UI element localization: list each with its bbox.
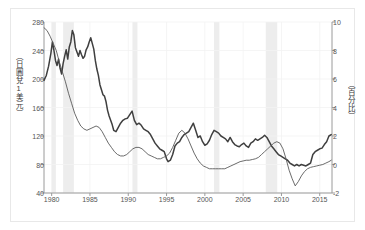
x-axis-ticks: 19801985199019952000200520102015 — [0, 196, 365, 210]
y-tick-label-right: 6 — [333, 76, 337, 83]
y-axis-right-title: （百分比） — [345, 80, 356, 120]
y-tick-label-left: 240 — [32, 47, 44, 54]
y-axis-left-title: （日圓兌1美元） — [13, 52, 24, 117]
y-tick-label-right: 10 — [333, 19, 341, 26]
x-tick-label: 1995 — [159, 196, 175, 203]
x-tick-label: 1980 — [44, 196, 60, 203]
y-tick-label-left: 120 — [32, 133, 44, 140]
y-tick-label-left: 280 — [32, 19, 44, 26]
y-tick-label-right: 2 — [333, 133, 337, 140]
series-line-interest-rate — [44, 28, 331, 186]
y-tick-label-left: 200 — [32, 76, 44, 83]
y-tick-label-right: 4 — [333, 104, 337, 111]
y-tick-label-left: 160 — [32, 104, 44, 111]
x-tick-label: 1990 — [120, 196, 136, 203]
x-tick-label: 2005 — [235, 196, 251, 203]
x-tick-label: 1985 — [82, 196, 98, 203]
y-tick-label-left: 80 — [36, 161, 44, 168]
chart-figure: 4080120160200240280 -20246810 1980198519… — [0, 0, 365, 230]
y-tick-label-right: 8 — [333, 47, 337, 54]
x-tick-label: 2000 — [197, 196, 213, 203]
x-tick-label: 2015 — [312, 196, 328, 203]
y-tick-label-right: 0 — [333, 161, 337, 168]
x-tick-label: 2010 — [274, 196, 290, 203]
